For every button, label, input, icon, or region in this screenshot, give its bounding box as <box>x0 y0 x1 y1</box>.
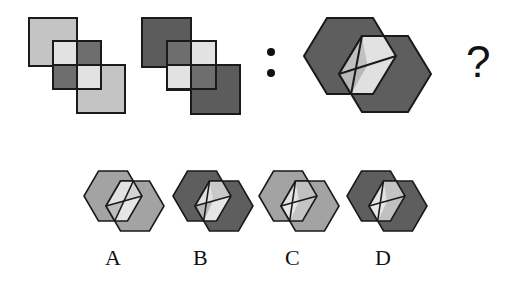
puzzle-canvas <box>0 0 511 282</box>
overlap-cell <box>167 65 191 89</box>
option-label-a[interactable]: A <box>105 247 121 269</box>
figure-squares-dark <box>142 18 240 114</box>
answer-options <box>84 171 427 231</box>
colon-separator <box>267 48 275 77</box>
overlap-cell <box>77 41 101 65</box>
option-a[interactable] <box>84 171 164 231</box>
option-label-d[interactable]: D <box>375 247 391 269</box>
option-c[interactable] <box>259 171 339 231</box>
option-label-b[interactable]: B <box>193 247 208 269</box>
overlap-cell <box>167 41 191 65</box>
overlap-cell <box>77 65 101 89</box>
overlap-cell <box>191 65 216 89</box>
option-b[interactable] <box>173 171 253 231</box>
overlap-cell <box>191 41 216 65</box>
overlap-cell <box>53 41 77 65</box>
question-mark: ? <box>466 40 490 84</box>
figure-hexagons <box>304 18 431 112</box>
option-d[interactable] <box>347 171 427 231</box>
option-label-c[interactable]: C <box>285 247 300 269</box>
figure-squares-light <box>29 18 125 113</box>
overlap-cell <box>53 65 77 89</box>
